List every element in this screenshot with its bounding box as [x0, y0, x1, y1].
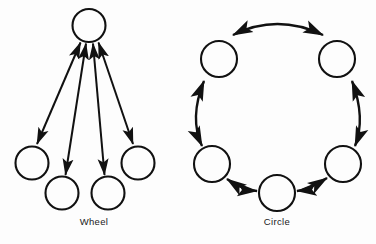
circle-node-upper-left [201, 41, 237, 77]
circle-diagram-label: Circle [264, 216, 290, 227]
wheel-link-hub-to-bottom-right [93, 44, 105, 176]
wheel-node-spoke-left [16, 147, 49, 180]
wheel-node-hub [73, 9, 106, 42]
wheel-link-hub-to-left [37, 43, 81, 145]
figure-page: Wheel Circle [0, 0, 376, 244]
wheel-links [37, 43, 133, 176]
circle-node-upper-right [319, 41, 355, 77]
circle-nodes [194, 41, 361, 211]
circle-link-arc-bottom-left [227, 179, 257, 191]
circle-link-arc-bottom-right [297, 178, 327, 191]
wheel-node-spoke-bottom-right [92, 177, 125, 210]
wheel-node-spoke-right [122, 147, 155, 180]
wheel-link-hub-to-right [99, 43, 134, 145]
circle-link-arc-right [352, 81, 360, 146]
wheel-diagram-label: Wheel [80, 216, 109, 227]
wheel-diagram: Wheel [16, 9, 155, 227]
circle-node-lower-right [325, 146, 361, 182]
circle-node-lower-left [194, 146, 230, 182]
circle-link-arc-left [196, 81, 204, 146]
wheel-nodes [16, 9, 155, 210]
circle-diagram: Circle [194, 24, 361, 227]
wheel-link-hub-to-bottom-left [66, 44, 87, 176]
network-diagram-figure: Wheel Circle [0, 0, 376, 244]
circle-node-bottom [259, 175, 295, 211]
wheel-node-spoke-bottom-left [46, 177, 79, 210]
circle-link-arc-top [233, 24, 323, 35]
